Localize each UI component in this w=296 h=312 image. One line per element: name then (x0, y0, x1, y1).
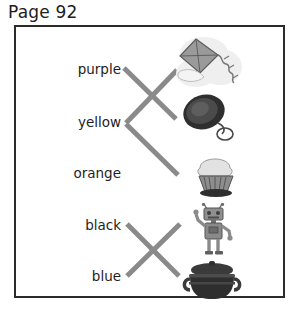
picture-yo-yo[interactable] (180, 92, 238, 144)
word-item-purple[interactable]: purple (0, 61, 121, 77)
word-item-blue[interactable]: blue (0, 268, 121, 284)
page-title: Page 92 (8, 2, 78, 22)
word-item-black[interactable]: black (0, 217, 121, 233)
picture-pot[interactable] (181, 257, 243, 303)
word-item-orange[interactable]: orange (0, 165, 121, 181)
word-column: purple yellow orange black blue (0, 25, 121, 298)
worksheet-page: Page 92 purple yellow orange black blue (0, 0, 296, 312)
word-item-yellow[interactable]: yellow (0, 114, 121, 130)
picture-robot[interactable] (191, 203, 237, 257)
picture-cupcake[interactable] (190, 152, 242, 202)
picture-kite[interactable] (174, 33, 248, 91)
